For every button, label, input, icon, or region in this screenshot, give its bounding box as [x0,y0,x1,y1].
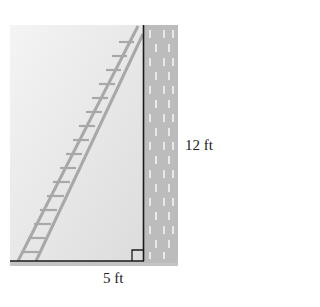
base-label: 5 ft [103,270,123,287]
height-label: 12 ft [185,137,213,154]
brick-wall [143,25,178,263]
